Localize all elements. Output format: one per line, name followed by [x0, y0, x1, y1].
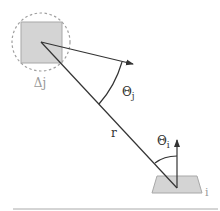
label-delta-j: Δj [34, 76, 46, 90]
label-theta-j: Θj [122, 85, 135, 101]
form-factor-diagram: Δj Θj r Θi i [0, 0, 220, 211]
distance-line-r [41, 42, 177, 188]
label-theta-i-base: Θ [157, 134, 167, 148]
label-receiver-i: i [205, 186, 209, 199]
theta-j-arc [99, 62, 122, 104]
label-theta-j-sub: j [131, 91, 135, 101]
label-theta-i-sub: i [167, 140, 170, 150]
theta-i-arc [155, 156, 177, 163]
label-r: r [111, 126, 117, 140]
label-theta-j-base: Θ [122, 85, 132, 99]
label-theta-i: Θi [157, 134, 170, 150]
